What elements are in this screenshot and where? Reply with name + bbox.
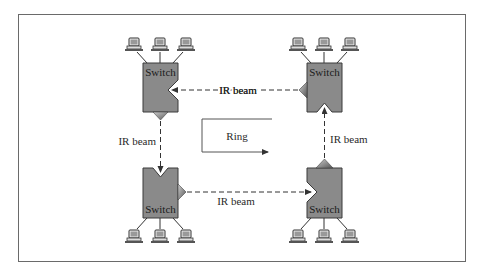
beam-label: IR beam <box>118 135 156 147</box>
computer-icon <box>177 230 195 243</box>
computer-icon <box>315 230 333 243</box>
ir-beam-left: IR beam <box>118 121 160 172</box>
computer-icon <box>151 38 169 51</box>
computer-icon <box>289 230 307 243</box>
beam-label: IR beam <box>217 195 255 207</box>
switch-label: Switch <box>309 66 340 78</box>
ring-direction-indicator: Ring <box>202 119 272 152</box>
ring-label: Ring <box>226 130 248 142</box>
ir-transmitter-icon <box>178 184 186 200</box>
computer-icon <box>289 38 307 51</box>
ir-transmitter-icon <box>316 159 333 168</box>
switch-bottom-right: Switch <box>289 159 359 243</box>
computer-icon <box>125 230 143 243</box>
ir-beam-right: IR beam <box>325 108 369 158</box>
svg-text:IR beam: IR beam <box>219 84 257 96</box>
computer-icon <box>315 38 333 51</box>
ir-ring-diagram: Switch Switch Switch Switch <box>0 0 482 276</box>
computer-icon <box>341 230 359 243</box>
switch-label: Switch <box>145 203 176 215</box>
computer-icon <box>151 230 169 243</box>
ir-beam-bottom: IR beam <box>187 192 311 207</box>
computer-icon <box>341 38 359 51</box>
switch-bottom-left: Switch <box>125 168 195 243</box>
ir-transmitter-icon <box>299 82 307 98</box>
switch-label: Switch <box>145 66 176 78</box>
switch-top-left: Switch <box>125 38 195 120</box>
ir-transmitter-icon <box>153 112 168 120</box>
computer-icon <box>177 38 195 51</box>
computer-icon <box>125 38 143 51</box>
beam-label: IR beam <box>330 133 368 145</box>
switch-top-right: Switch <box>289 38 359 112</box>
ir-beam-top: IR beam IR beam <box>172 84 298 96</box>
switch-label: Switch <box>309 203 340 215</box>
